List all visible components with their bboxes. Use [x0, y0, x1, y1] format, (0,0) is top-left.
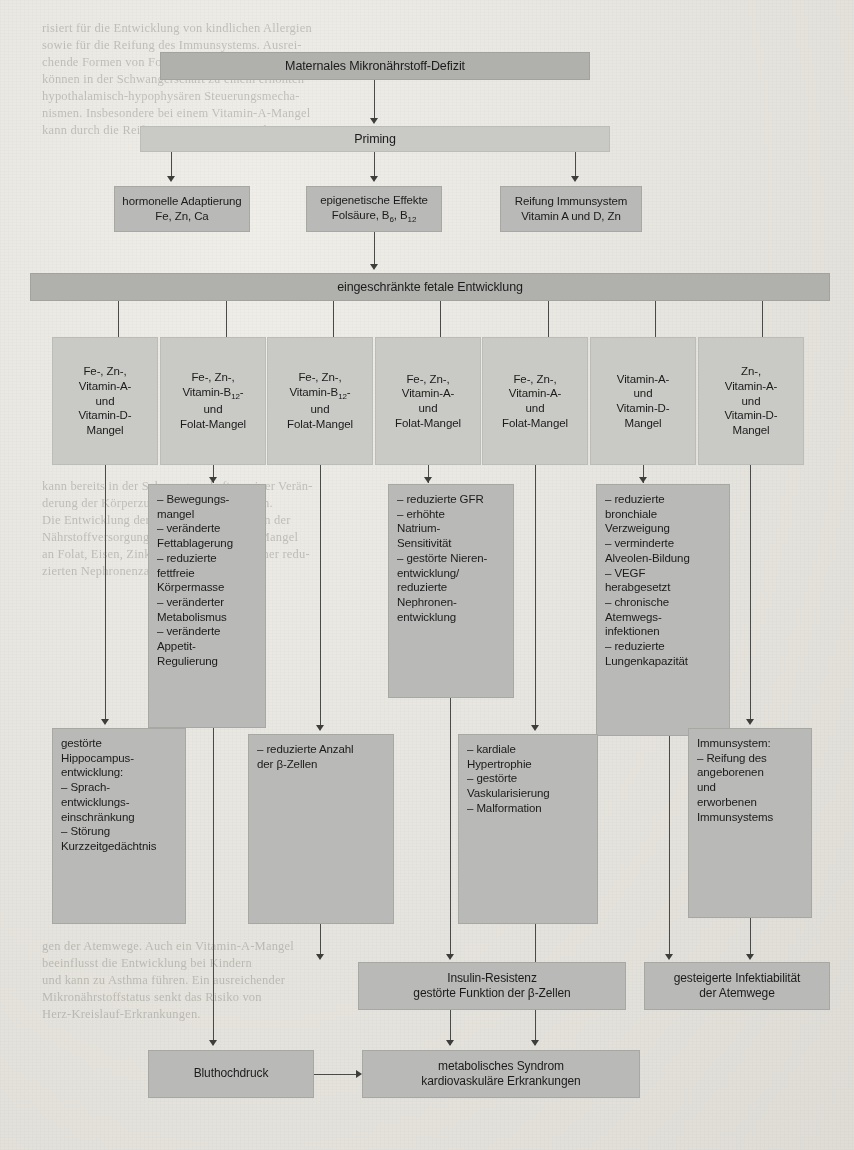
- node-deficit-2[interactable]: Fe-, Zn-,Vitamin-B12-undFolat-Mangel: [267, 337, 373, 465]
- arrow-to-fetal: [370, 264, 378, 270]
- node-effects-metabolic[interactable]: – Bewegungs- mangel – veränderte Fettabl…: [148, 484, 266, 728]
- scanned-page: risiert für die Entwicklung von kindlich…: [0, 0, 854, 1150]
- node-hypertension[interactable]: Bluthochdruck: [148, 1050, 314, 1098]
- node-effects-lung[interactable]: – reduzierte bronchiale Verzweigung – ve…: [596, 484, 730, 736]
- node-metabolic-syndrome[interactable]: metabolisches Syndrom kardiovaskuläre Er…: [362, 1050, 640, 1098]
- node-priming-child-1-line1: epigenetische Effekte: [311, 193, 437, 208]
- arrow-deficit1-to-metabolic: [209, 477, 217, 483]
- node-effects-metabolic-label: – Bewegungs- mangel – veränderte Fettabl…: [157, 492, 259, 669]
- arrow-deficit0-to-hippocampus: [101, 719, 109, 725]
- node-deficit-4-label: Fe-, Zn-, Vitamin-A- und Folat-Mangel: [487, 372, 583, 431]
- arrow-priming-2: [370, 176, 378, 182]
- node-insulin-resistance-label: Insulin-Resistenz gestörte Funktion der …: [363, 971, 621, 1002]
- node-deficit-2-label: Fe-, Zn-,Vitamin-B12-undFolat-Mangel: [272, 370, 368, 432]
- node-fetal-development-label: eingeschränkte fetale Entwicklung: [35, 279, 825, 295]
- connector-fetal-3: [440, 301, 441, 337]
- arrow-beta-to-insulin: [316, 954, 324, 960]
- connector-fetal-1: [226, 301, 227, 337]
- node-effects-renal-label: – reduzierte GFR – erhöhte Natrium- Sens…: [397, 492, 507, 624]
- connector-fetal-0: [118, 301, 119, 337]
- node-effects-lung-label: – reduzierte bronchiale Verzweigung – ve…: [605, 492, 723, 669]
- connector-beta-down: [320, 924, 321, 958]
- node-beta-cells[interactable]: – reduzierte Anzahl der β-Zellen: [248, 734, 394, 924]
- node-priming-child-2-line2: Vitamin A und D, Zn: [505, 209, 637, 224]
- connector-deficit0-to-hippocampus: [105, 465, 106, 723]
- node-deficit-5-label: Vitamin-A- und Vitamin-D- Mangel: [595, 372, 691, 431]
- node-priming-child-2-line1: Reifung Immunsystem: [505, 194, 637, 209]
- arrow-renal-to-insulin: [446, 954, 454, 960]
- node-cardiac[interactable]: – kardiale Hypertrophie – gestörte Vasku…: [458, 734, 598, 924]
- node-effects-renal[interactable]: – reduzierte GFR – erhöhte Natrium- Sens…: [388, 484, 514, 698]
- node-hippocampus[interactable]: gestörte Hippocampus- entwicklung: – Spr…: [52, 728, 186, 924]
- node-priming-child-2[interactable]: Reifung Immunsystem Vitamin A und D, Zn: [500, 186, 642, 232]
- node-deficit-1-label: Fe-, Zn-,Vitamin-B12-undFolat-Mangel: [165, 370, 261, 432]
- connector-renal-down: [450, 698, 451, 958]
- arrow-deficit3-to-renal: [424, 477, 432, 483]
- node-deficit-0-label: Fe-, Zn-, Vitamin-A- und Vitamin-D- Mang…: [57, 364, 153, 438]
- arrow-priming-3: [571, 176, 579, 182]
- node-root[interactable]: Maternales Mikronährstoff-Defizit: [160, 52, 590, 80]
- node-priming-child-1-line2: Folsäure, B6, B12: [311, 208, 437, 226]
- connector-deficit2-to-beta: [320, 465, 321, 729]
- node-metabolic-syndrome-label: metabolisches Syndrom kardiovaskuläre Er…: [367, 1059, 635, 1090]
- node-deficit-6[interactable]: Zn-, Vitamin-A- und Vitamin-D- Mangel: [698, 337, 804, 465]
- connector-hypertension-to-metabolic-syndrome: [314, 1074, 358, 1075]
- connector-fetal-6: [762, 301, 763, 337]
- connector-deficit6-to-immune: [750, 465, 751, 723]
- connector-immune-down: [750, 918, 751, 958]
- connector-lung-down: [669, 736, 670, 958]
- node-priming-child-0[interactable]: hormonelle Adaptierung Fe, Zn, Ca: [114, 186, 250, 232]
- arrow-immune-to-infection: [746, 954, 754, 960]
- node-deficit-0[interactable]: Fe-, Zn-, Vitamin-A- und Vitamin-D- Mang…: [52, 337, 158, 465]
- node-beta-cells-label: – reduzierte Anzahl der β-Zellen: [257, 742, 387, 771]
- node-insulin-resistance[interactable]: Insulin-Resistenz gestörte Funktion der …: [358, 962, 626, 1010]
- arrow-lung-to-infection: [665, 954, 673, 960]
- node-deficit-3-label: Fe-, Zn-, Vitamin-A- und Folat-Mangel: [380, 372, 476, 431]
- node-cardiac-label: – kardiale Hypertrophie – gestörte Vasku…: [467, 742, 591, 816]
- arrow-deficit4-to-cardiac: [531, 725, 539, 731]
- node-infection-label: gesteigerte Infektiabilität der Atemwege: [649, 971, 825, 1002]
- node-fetal-development[interactable]: eingeschränkte fetale Entwicklung: [30, 273, 830, 301]
- node-infection[interactable]: gesteigerte Infektiabilität der Atemwege: [644, 962, 830, 1010]
- node-deficit-3[interactable]: Fe-, Zn-, Vitamin-A- und Folat-Mangel: [375, 337, 481, 465]
- node-priming-child-0-line2: Fe, Zn, Ca: [119, 209, 245, 224]
- connector-fetal-4: [548, 301, 549, 337]
- connector-priming-child-1-down: [374, 232, 375, 268]
- node-deficit-6-label: Zn-, Vitamin-A- und Vitamin-D- Mangel: [703, 364, 799, 438]
- arrow-deficit5-to-lung: [639, 477, 647, 483]
- connector-fetal-5: [655, 301, 656, 337]
- arrow-deficit6-to-immune: [746, 719, 754, 725]
- arrow-cardiac-to-metabolic-syndrome: [531, 1040, 539, 1046]
- flowchart: Maternales Mikronährstoff-Defizit Primin…: [30, 38, 830, 1110]
- node-deficit-4[interactable]: Fe-, Zn-, Vitamin-A- und Folat-Mangel: [482, 337, 588, 465]
- arrow-insulin-to-metabolic-syndrome: [446, 1040, 454, 1046]
- connector-metabolic-down: [213, 728, 214, 1045]
- node-root-label: Maternales Mikronährstoff-Defizit: [165, 58, 585, 74]
- arrow-metabolic-to-hypertension: [209, 1040, 217, 1046]
- connector-root-to-priming: [374, 80, 375, 122]
- arrow-root-to-priming: [370, 118, 378, 124]
- arrow-deficit2-to-beta: [316, 725, 324, 731]
- node-immune-label: Immunsystem: – Reifung des angeborenen u…: [697, 736, 805, 824]
- node-priming[interactable]: Priming: [140, 126, 610, 152]
- node-deficit-1[interactable]: Fe-, Zn-,Vitamin-B12-undFolat-Mangel: [160, 337, 266, 465]
- arrow-priming-1: [167, 176, 175, 182]
- node-hypertension-label: Bluthochdruck: [153, 1066, 309, 1081]
- node-hippocampus-label: gestörte Hippocampus- entwicklung: – Spr…: [61, 736, 179, 854]
- node-priming-label: Priming: [145, 131, 605, 147]
- connector-deficit4-to-cardiac: [535, 465, 536, 729]
- node-priming-child-1[interactable]: epigenetische Effekte Folsäure, B6, B12: [306, 186, 442, 232]
- node-deficit-5[interactable]: Vitamin-A- und Vitamin-D- Mangel: [590, 337, 696, 465]
- node-immune[interactable]: Immunsystem: – Reifung des angeborenen u…: [688, 728, 812, 918]
- connector-fetal-2: [333, 301, 334, 337]
- node-priming-child-0-line1: hormonelle Adaptierung: [119, 194, 245, 209]
